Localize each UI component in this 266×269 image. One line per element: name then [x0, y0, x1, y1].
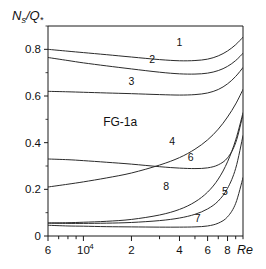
curve-5 — [48, 136, 243, 224]
y-tick-label: 0.6 — [25, 90, 41, 102]
curve-labels: 12345678 — [129, 36, 228, 225]
y-tick-label: 0.2 — [25, 183, 41, 195]
curve-6 — [48, 115, 243, 169]
x-tick-label: 2 — [128, 244, 134, 256]
chart-annotation: FG-1a — [103, 115, 137, 129]
curve-8 — [48, 113, 243, 223]
curve-2 — [48, 53, 243, 74]
y-axis: 00.20.40.60.8 — [25, 26, 48, 242]
curve-1 — [48, 37, 243, 61]
curve-label-2: 2 — [149, 53, 155, 65]
curve-label-3: 3 — [129, 75, 135, 87]
curve-label-7: 7 — [195, 212, 201, 224]
y-tick-label: 0.4 — [25, 137, 42, 149]
x-tick-label: 6 — [45, 244, 51, 256]
curve-label-4: 4 — [169, 135, 175, 147]
x-tick-exponent: 4 — [89, 242, 94, 251]
curve-label-5: 5 — [222, 185, 228, 197]
x-tick-label: 6 — [204, 244, 210, 256]
x-tick-label: 4 — [176, 244, 183, 256]
x-axis-label: Re — [237, 243, 253, 257]
curves-group — [48, 37, 243, 227]
curve-4 — [48, 89, 243, 187]
x-tick-label: 10 — [77, 244, 90, 256]
x-axis: 61042468 — [45, 236, 243, 256]
curve-label-1: 1 — [177, 36, 183, 48]
curve-label-8: 8 — [163, 180, 169, 192]
y-tick-label: 0.8 — [25, 43, 41, 55]
y-tick-label: 0 — [35, 230, 41, 242]
curve-label-6: 6 — [188, 151, 194, 163]
x-tick-label: 8 — [224, 244, 230, 256]
figure-container: 00.20.40.60.861042468ReNs/Q*12345678FG-1… — [0, 0, 266, 269]
chart-svg: 00.20.40.60.861042468ReNs/Q*12345678FG-1… — [0, 0, 266, 269]
y-axis-label: Ns/Q* — [12, 8, 44, 25]
